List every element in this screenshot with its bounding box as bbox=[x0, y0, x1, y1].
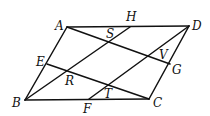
point-label-s: S bbox=[106, 27, 114, 41]
point-label-b: B bbox=[11, 96, 21, 110]
point-label-h: H bbox=[125, 10, 137, 24]
point-label-g: G bbox=[172, 63, 182, 77]
segment-AG bbox=[67, 27, 170, 64]
point-label-c: C bbox=[153, 96, 162, 110]
segment-EC bbox=[47, 64, 149, 99]
segment-CB bbox=[25, 99, 149, 100]
segment-BA bbox=[25, 27, 67, 100]
parallelogram-diagram: AHDEGBFCSVRT bbox=[0, 0, 210, 116]
segment-DC bbox=[149, 26, 189, 99]
point-label-f: F bbox=[82, 102, 92, 116]
point-label-d: D bbox=[191, 19, 202, 33]
point-label-a: A bbox=[54, 19, 64, 33]
point-label-v: V bbox=[159, 48, 169, 62]
segment-AD bbox=[67, 26, 189, 27]
point-label-e: E bbox=[35, 55, 45, 69]
point-label-t: T bbox=[104, 87, 113, 101]
point-label-r: R bbox=[64, 74, 74, 88]
